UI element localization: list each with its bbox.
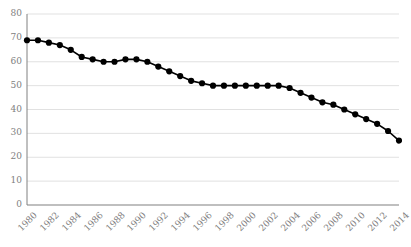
y-tick-label: 60 bbox=[0, 56, 22, 66]
y-tick-label: 80 bbox=[0, 8, 22, 18]
y-tick-label: 70 bbox=[0, 32, 22, 42]
y-tick-label: 50 bbox=[0, 80, 22, 90]
y-tick-label: 30 bbox=[0, 127, 22, 137]
y-tick-label: 0 bbox=[0, 199, 22, 209]
y-tick-label: 20 bbox=[0, 151, 22, 161]
y-tick-label: 10 bbox=[0, 175, 22, 185]
y-tick-label: 40 bbox=[0, 104, 22, 114]
